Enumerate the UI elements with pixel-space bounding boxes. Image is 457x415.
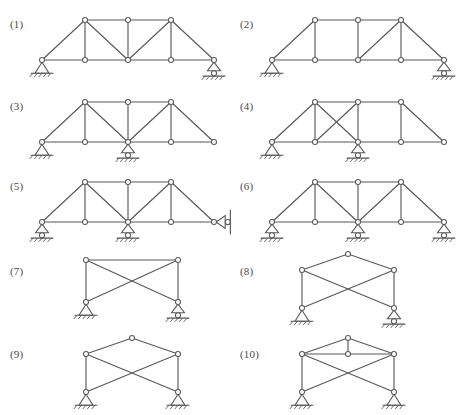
joint-top-mid (356, 100, 361, 105)
roller-support-triangle (352, 224, 365, 233)
roller-wheel (211, 71, 216, 76)
joint-top-mid (126, 18, 131, 23)
roller-wheel (355, 233, 360, 238)
supports-group (30, 62, 225, 79)
wall-link-roller (225, 219, 230, 224)
joint-top-right (399, 100, 404, 105)
pin-support-triangle (171, 394, 185, 405)
joint-bottom-mid (126, 220, 131, 225)
joint-top-left (83, 180, 88, 185)
member-upper-left-to-apex (86, 338, 132, 354)
figure-label-5: (5) (10, 180, 23, 192)
joint-top-mid (356, 18, 361, 23)
joint-top-right (176, 258, 181, 263)
joint-bottom-mid (356, 58, 361, 63)
truss-svg-4 (266, 90, 457, 180)
joint-bottom-left-support (270, 58, 275, 63)
member-bottom-mid-to-top-right (128, 102, 171, 142)
members-group (302, 254, 394, 308)
joint-apex (346, 252, 351, 257)
roller-support-triangle (388, 310, 401, 319)
joint-bottom-left-support (270, 140, 275, 145)
member-upper-left-to-apex (302, 254, 348, 270)
joint-bottom-right-support (176, 300, 181, 305)
joint-bottom-3 (399, 220, 404, 225)
joint-upper-right (176, 352, 181, 357)
pin-support-triangle (79, 304, 93, 315)
truss-svg-7 (80, 252, 295, 342)
roller-wheel (175, 313, 180, 318)
member-bottom-right-end-to-top-right (401, 102, 444, 142)
joint-bottom-left-support (270, 220, 275, 225)
joint-upper-left (300, 268, 305, 273)
joint-bottom-3 (399, 140, 404, 145)
members-group (302, 338, 394, 392)
joint-top-right (169, 18, 174, 23)
supports-group (74, 394, 189, 409)
members-group (86, 260, 178, 302)
roller-wheel (125, 233, 130, 238)
truss-svg-5 (36, 170, 251, 260)
member-top-left-to-bottom-mid (85, 20, 128, 60)
pin-support-triangle (387, 394, 401, 405)
members-group (272, 20, 444, 60)
figure-label-9: (9) (10, 348, 23, 360)
member-bottom-left-support-to-top-left (42, 102, 85, 142)
member-bottom-right-support-to-top-right (401, 182, 444, 222)
pin-support-triangle (295, 310, 309, 321)
joint-bottom-1 (83, 58, 88, 63)
member-bottom-left-support-to-top-left (42, 20, 85, 60)
member-bottom-left-support-to-top-left (42, 182, 85, 222)
joint-bottom-3 (399, 58, 404, 63)
member-bottom-mid-to-top-right (358, 182, 401, 222)
joint-bottom-left-support (84, 390, 89, 395)
truss-svg-6 (266, 170, 457, 260)
joint-bottom-left-support (300, 306, 305, 311)
member-bottom-left-support-to-top-left (272, 182, 315, 222)
truss-svg-2 (266, 8, 457, 98)
joint-bottom-1 (313, 58, 318, 63)
joint-top-right (169, 100, 174, 105)
joint-upper-left (300, 352, 305, 357)
roller-support-triangle (172, 304, 185, 313)
roller-support-triangle (438, 224, 451, 233)
roller-support-triangle (208, 62, 221, 70)
member-bottom-mid-to-top-right (358, 20, 401, 60)
members-group (272, 182, 444, 222)
roller-wheel (441, 71, 446, 76)
joint-top-left (313, 18, 318, 23)
joint-top-left (313, 180, 318, 185)
truss-figure-sheet: (1)(2)(3)(4)(5)(6)(7)(8)(9)(10) (0, 0, 457, 415)
roller-support-triangle (122, 144, 135, 153)
member-upper-right-to-apex (348, 338, 394, 354)
joint-bottom-3 (169, 58, 174, 63)
pin-support-triangle (35, 62, 49, 73)
figure-label-6: (6) (240, 180, 253, 192)
truss-svg-10 (296, 332, 457, 415)
joint-bottom-1 (83, 140, 88, 145)
members-group (272, 102, 444, 142)
roller-support-triangle (438, 62, 451, 70)
joint-apex (130, 336, 135, 341)
joint-top-left (83, 18, 88, 23)
figure-label-7: (7) (10, 265, 23, 277)
roller-support-triangle (352, 144, 365, 153)
member-bottom-left-support-to-top-left (272, 20, 315, 60)
joint-bottom-right-support (392, 306, 397, 311)
member-top-left-to-bottom-mid (85, 182, 128, 222)
pin-support-triangle (265, 62, 279, 73)
supports-group (260, 224, 455, 241)
joint-upper-mid (346, 352, 351, 357)
roller-wheel (125, 153, 130, 158)
joint-bottom-left-support (84, 300, 89, 305)
member-bottom-mid-to-top-right (128, 182, 171, 222)
joint-bottom-right-support (212, 220, 217, 225)
member-upper-right-to-apex (348, 254, 394, 270)
supports-group (74, 304, 189, 321)
joint-top-mid (126, 100, 131, 105)
joint-top-left (313, 100, 318, 105)
joint-top-left (84, 258, 89, 263)
joint-bottom-right-end (442, 140, 447, 145)
supports-group (290, 394, 405, 409)
figure-label-4: (4) (240, 100, 253, 112)
